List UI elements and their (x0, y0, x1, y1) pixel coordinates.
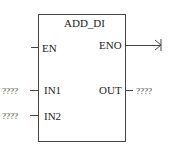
in2-value[interactable]: ???? (2, 110, 18, 122)
out-connector (126, 90, 133, 91)
out-label: OUT (99, 84, 122, 96)
in2-connector (30, 115, 38, 116)
out-value[interactable]: ???? (136, 85, 152, 97)
in2-label: IN2 (44, 110, 61, 122)
in1-value[interactable]: ???? (2, 85, 18, 97)
arrow-icon (0, 0, 174, 148)
in1-label: IN1 (44, 84, 61, 96)
in1-connector (30, 90, 38, 91)
